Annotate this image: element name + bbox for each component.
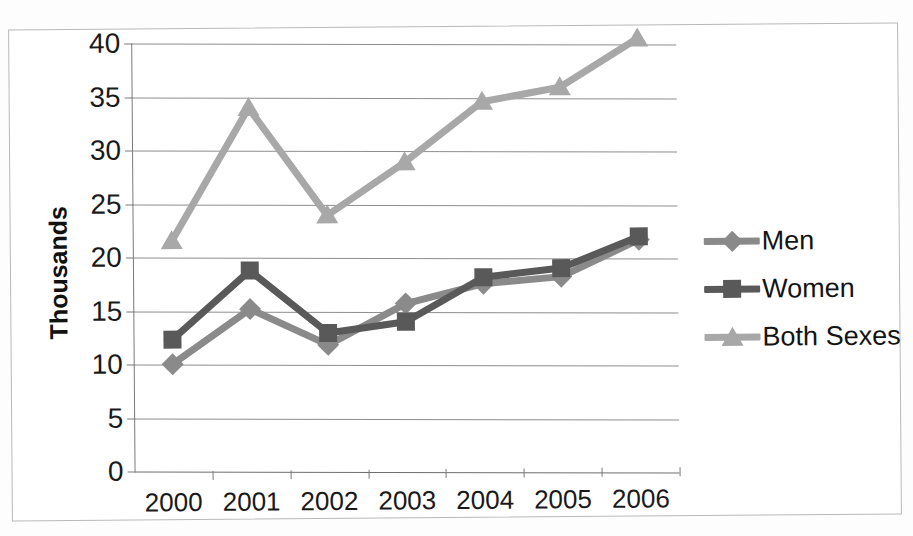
y-axis-tick-label: 15	[91, 295, 122, 327]
x-axis-tick	[290, 470, 291, 479]
data-point-marker	[397, 313, 415, 331]
x-axis-tick-label: 2000	[145, 487, 203, 518]
data-point-marker	[552, 259, 570, 277]
y-axis-tick-label: 30	[90, 135, 121, 167]
legend-swatch	[704, 326, 760, 348]
legend: MenWomenBoth Sexes	[704, 216, 895, 361]
x-axis-tick	[212, 471, 213, 480]
data-point-marker	[626, 27, 648, 46]
legend-label: Both Sexes	[760, 320, 900, 352]
x-axis-tick-label: 2005	[534, 484, 592, 515]
series-line	[170, 38, 639, 241]
y-axis-title: Thousands	[43, 206, 73, 340]
legend-marker-diamond	[721, 230, 742, 251]
x-axis-tick-label: 2001	[223, 486, 281, 517]
plot-area: 0510152025303540 20002001200220032004200…	[131, 39, 679, 471]
data-point-marker	[319, 324, 337, 342]
data-point-marker	[237, 97, 259, 116]
y-axis-tick-label: 25	[90, 188, 121, 220]
y-axis-tick-label: 0	[108, 456, 124, 488]
y-axis-tick-label: 20	[91, 242, 122, 274]
y-axis-tick-label: 5	[107, 402, 123, 434]
series-women	[163, 227, 649, 348]
legend-item-women[interactable]: Women	[704, 264, 894, 313]
data-point-marker	[163, 331, 181, 349]
x-axis-tick-label: 2003	[378, 485, 436, 516]
x-axis-tick-label: 2002	[300, 486, 358, 517]
x-axis-tick-label: 2004	[456, 485, 514, 516]
legend-swatch	[704, 278, 760, 300]
x-axis-tick-label: 2006	[612, 483, 670, 514]
legend-item-men[interactable]: Men	[704, 216, 894, 265]
chart-frame: Thousands 0510152025303540 2000200120022…	[8, 23, 902, 522]
x-axis-tick	[680, 467, 681, 476]
x-axis-tick	[368, 470, 369, 479]
scanned-page: Thousands 0510152025303540 2000200120022…	[0, 0, 913, 536]
legend-marker-triangle	[721, 327, 743, 346]
data-point-marker	[630, 227, 648, 245]
series-both-sexes	[159, 27, 650, 249]
x-axis-tick	[602, 468, 603, 477]
series-plot	[131, 39, 679, 471]
y-axis-tick-label: 40	[89, 28, 120, 60]
series-men	[161, 229, 651, 376]
legend-label: Women	[760, 272, 855, 304]
data-point-marker	[474, 268, 492, 286]
y-axis-tick	[128, 472, 136, 473]
x-axis-tick	[524, 468, 525, 477]
x-axis-tick	[446, 469, 447, 478]
gridline	[135, 472, 680, 474]
y-axis-tick-label: 35	[89, 81, 120, 113]
legend-swatch	[704, 230, 760, 252]
y-axis-tick-label: 10	[91, 349, 122, 381]
legend-marker-square	[723, 280, 741, 298]
legend-item-both-sexes[interactable]: Both Sexes	[704, 312, 894, 361]
legend-label: Men	[760, 225, 815, 256]
data-point-marker	[241, 261, 259, 279]
